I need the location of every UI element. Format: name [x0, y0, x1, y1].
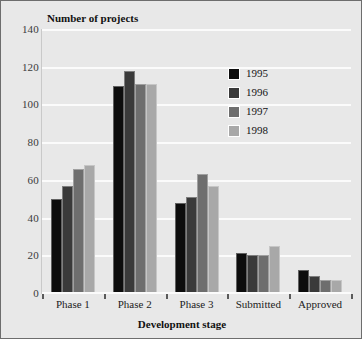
y-axis-ticks: 020406080100120140 — [1, 1, 39, 339]
legend-label: 1996 — [246, 87, 268, 98]
x-tick-label: Phase 3 — [180, 298, 214, 310]
bar — [124, 71, 135, 294]
y-tick-label: 140 — [5, 23, 39, 35]
x-tick-mark — [351, 294, 353, 299]
bar — [73, 169, 84, 293]
bar — [208, 186, 219, 293]
legend-label: 1997 — [246, 106, 268, 117]
y-tick-label: 100 — [5, 98, 39, 110]
bar — [186, 197, 197, 293]
plot-area — [42, 29, 351, 293]
bar — [298, 270, 309, 293]
bar — [146, 84, 157, 293]
bar — [258, 255, 269, 293]
bar — [135, 84, 146, 293]
bar — [197, 174, 208, 293]
legend-swatch-icon — [228, 106, 240, 118]
y-tick-label: 80 — [5, 136, 39, 148]
bar-group — [175, 29, 219, 293]
legend-label: 1998 — [246, 125, 268, 136]
y-tick-label: 40 — [5, 212, 39, 224]
y-tick-label: 60 — [5, 174, 39, 186]
bar — [175, 203, 186, 294]
legend-item: 1995 — [228, 64, 268, 83]
x-tick-label: Phase 2 — [118, 298, 152, 310]
bar — [113, 86, 124, 293]
bar — [62, 186, 73, 293]
bar-chart: Number of projects 020406080100120140 Ph… — [0, 0, 362, 339]
x-tick-mark — [227, 294, 229, 299]
y-tick-label: 0 — [5, 287, 39, 299]
x-tick-label: Phase 1 — [56, 298, 90, 310]
x-tick-mark — [166, 294, 168, 299]
legend-swatch-icon — [228, 87, 240, 99]
legend-item: 1996 — [228, 83, 268, 102]
x-tick-mark — [289, 294, 291, 299]
x-tick-mark — [42, 294, 44, 299]
legend-label: 1995 — [246, 68, 268, 79]
y-axis-title: Number of projects — [47, 12, 138, 24]
legend-swatch-icon — [228, 68, 240, 80]
bar-group — [113, 29, 157, 293]
legend-item: 1997 — [228, 102, 268, 121]
bar — [84, 165, 95, 293]
bar — [247, 255, 258, 293]
bar-group — [298, 29, 342, 293]
legend: 1995199619971998 — [228, 64, 268, 140]
bar — [309, 276, 320, 293]
bar — [51, 199, 62, 293]
legend-swatch-icon — [228, 125, 240, 137]
legend-item: 1998 — [228, 121, 268, 140]
bar — [269, 246, 280, 293]
bar — [236, 253, 247, 293]
y-tick-label: 20 — [5, 249, 39, 261]
bar-group — [51, 29, 95, 293]
x-tick-label: Submitted — [236, 298, 281, 310]
x-tick-mark — [104, 294, 106, 299]
y-tick-label: 120 — [5, 61, 39, 73]
x-axis-line — [42, 292, 351, 294]
x-axis-title: Development stage — [1, 318, 362, 330]
x-tick-label: Approved — [298, 298, 342, 310]
